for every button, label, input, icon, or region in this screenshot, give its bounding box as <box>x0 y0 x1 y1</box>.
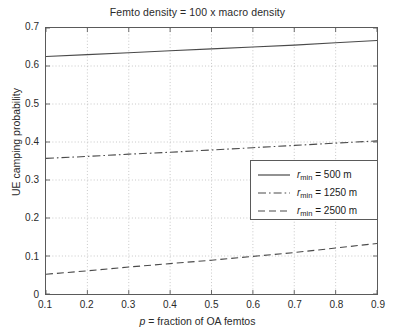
x-tick-label: 0.3 <box>108 299 148 310</box>
x-tick-label: 0.6 <box>233 299 273 310</box>
series-line-1 <box>46 141 377 158</box>
x-tick-label: 0.9 <box>358 299 395 310</box>
series-line-2 <box>46 243 377 274</box>
y-axis-label: UE camping probability <box>10 42 22 242</box>
legend-label: rmin = 2500 m <box>297 205 357 218</box>
x-tick-label: 0.8 <box>316 299 356 310</box>
legend-line-sample <box>258 188 290 198</box>
series-line-0 <box>46 41 377 57</box>
y-tick-label: 0.1 <box>0 251 39 262</box>
legend-line-sample <box>258 206 290 216</box>
x-label-variable: p <box>140 315 146 327</box>
x-tick-label: 0.7 <box>275 299 315 310</box>
legend-item: rmin = 500 m <box>251 166 377 184</box>
legend-item: rmin = 1250 m <box>251 184 377 202</box>
legend-line-sample <box>258 170 290 180</box>
legend-label: rmin = 500 m <box>297 169 352 182</box>
x-tick-label: 0.5 <box>192 299 232 310</box>
chart-title: Femto density = 100 x macro density <box>0 6 395 18</box>
x-tick-label: 0.1 <box>25 299 65 310</box>
chart-legend: rmin = 500 mrmin = 1250 mrmin = 2500 m <box>250 160 378 220</box>
y-tick-label: 0.7 <box>0 21 39 32</box>
x-axis-label: p = fraction of OA femtos <box>0 315 395 327</box>
legend-label: rmin = 1250 m <box>297 187 357 200</box>
x-tick-label: 0.2 <box>67 299 107 310</box>
x-tick-label: 0.4 <box>150 299 190 310</box>
legend-item: rmin = 2500 m <box>251 202 377 220</box>
chart-figure: Femto density = 100 x macro density 00.1… <box>0 0 395 333</box>
